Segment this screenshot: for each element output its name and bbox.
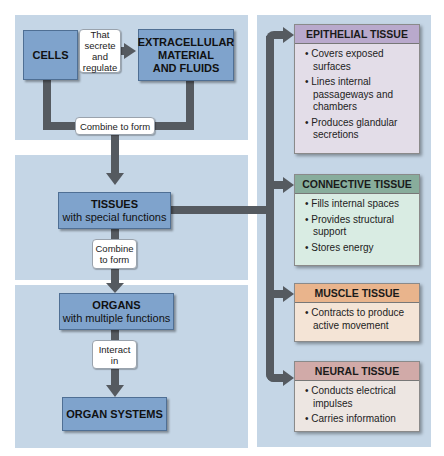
list-item: Contracts to produce active movement [305, 307, 415, 332]
list-item: Stores energy [305, 242, 415, 255]
secrete-regulate-label: That secrete and regulate [79, 29, 121, 73]
connector-vertical-trunk [266, 36, 274, 382]
arrow-to-epithelial [283, 27, 294, 43]
combine-to-form-label-2: Combine to form [92, 239, 137, 269]
extracellular-box: EXTRACELLULAR MATERIAL AND FLUIDS [138, 29, 234, 81]
list-item: Lines internal passageways and chambers [305, 76, 415, 114]
arrow-to-neural [283, 370, 294, 386]
cells-box: CELLS [23, 30, 78, 80]
interact-in-label: Interact in [92, 340, 137, 369]
neural-tissue-header: NEURAL TISSUE [295, 362, 419, 381]
list-item: Provides structural support [305, 214, 415, 239]
epithelial-tissue-header: EPITHELIAL TISSUE [295, 25, 419, 44]
tissues-box: TISSUES with special functions [58, 192, 171, 229]
connective-tissue-box: CONNECTIVE TISSUE Fills internal spaces … [294, 174, 420, 266]
list-item: Covers exposed surfaces [305, 48, 415, 73]
arrow-to-connective [283, 177, 294, 193]
organ-systems-box: ORGAN SYSTEMS [62, 397, 167, 431]
list-item: Conducts electrical impulses [305, 385, 415, 410]
list-item: Carries information [305, 413, 415, 426]
arrow-to-ecm [124, 43, 136, 59]
organs-box: ORGANS with multiple functions [59, 293, 174, 330]
arrow-to-organ-systems [106, 385, 124, 397]
combine-to-form-label: Combine to form [75, 117, 155, 135]
connector-tissues-right [170, 206, 274, 214]
cells-title: CELLS [32, 49, 68, 62]
epithelial-tissue-box: EPITHELIAL TISSUE Covers exposed surface… [294, 24, 420, 154]
connective-tissue-header: CONNECTIVE TISSUE [295, 175, 419, 194]
connector-to-tissues [111, 130, 119, 175]
muscle-tissue-box: MUSCLE TISSUE Contracts to produce activ… [294, 283, 420, 342]
list-item: Produces glandular secretions [305, 117, 415, 142]
arrow-to-organs [106, 283, 124, 293]
neural-tissue-box: NEURAL TISSUE Conducts electrical impuls… [294, 361, 420, 432]
muscle-tissue-header: MUSCLE TISSUE [295, 284, 419, 303]
list-item: Fills internal spaces [305, 198, 415, 211]
arrow-to-tissues [106, 173, 124, 185]
arrow-to-muscle [283, 286, 294, 302]
